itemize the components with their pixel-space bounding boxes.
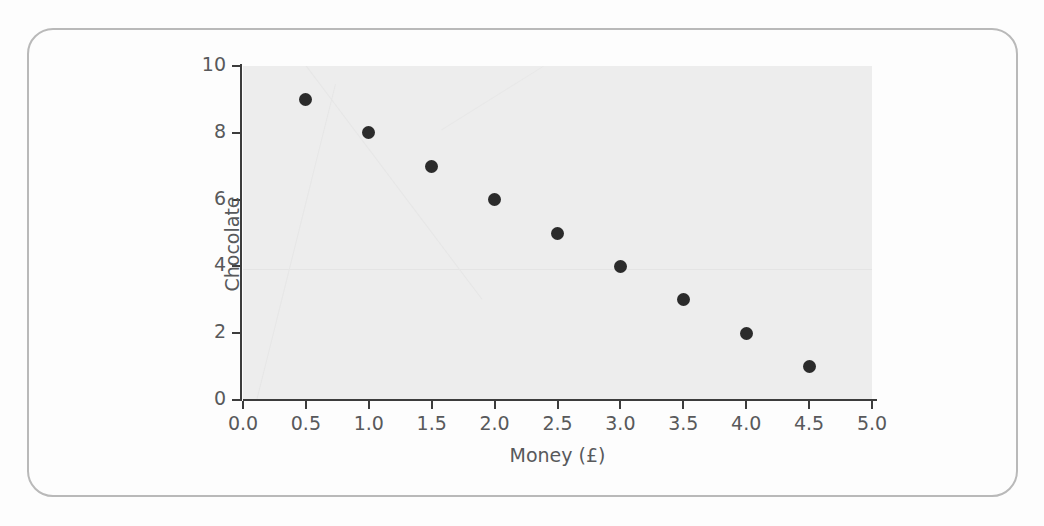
x-tick-label: 0.0 (213, 412, 273, 434)
x-tick-mark (242, 401, 244, 409)
y-tick-mark (232, 132, 240, 134)
scatter-chart-figure: 0.00.51.01.52.02.53.03.54.04.55.0 024681… (0, 0, 1044, 526)
x-tick-mark (557, 401, 559, 409)
x-tick-mark (619, 401, 621, 409)
x-tick-mark (808, 401, 810, 409)
x-tick-mark (871, 401, 873, 409)
data-point-marker (614, 260, 627, 273)
x-tick-label: 5.0 (842, 412, 902, 434)
x-tick-label: 4.0 (716, 412, 776, 434)
x-tick-label: 2.0 (465, 412, 525, 434)
x-tick-label: 1.5 (402, 412, 462, 434)
x-axis-label: Money (£) (243, 444, 872, 466)
scan-artifact-horizontal-line (243, 269, 872, 270)
y-tick-label: 2 (178, 320, 226, 342)
x-tick-mark (494, 401, 496, 409)
data-point-marker (425, 160, 438, 173)
y-tick-mark (232, 65, 240, 67)
x-tick-mark (745, 401, 747, 409)
x-tick-label: 3.0 (590, 412, 650, 434)
y-axis-label: Chocolate (221, 144, 243, 344)
scan-artifact-crease-1 (283, 66, 482, 300)
data-point-marker (551, 227, 564, 240)
y-tick-label: 8 (178, 120, 226, 142)
x-tick-mark (431, 401, 433, 409)
data-point-marker (803, 360, 816, 373)
y-tick-label: 10 (178, 53, 226, 75)
scanned-page: 0.00.51.01.52.02.53.03.54.04.55.0 024681… (0, 0, 1044, 526)
x-tick-mark (368, 401, 370, 409)
y-tick-label: 0 (178, 387, 226, 409)
x-axis-spine (243, 399, 877, 401)
y-tick-label: 6 (178, 187, 226, 209)
x-tick-label: 3.5 (653, 412, 713, 434)
y-tick-label: 4 (178, 253, 226, 275)
x-tick-mark (682, 401, 684, 409)
y-tick-mark (232, 399, 240, 401)
scan-artifact-crease-3 (441, 66, 543, 130)
x-tick-label: 0.5 (276, 412, 336, 434)
x-tick-label: 2.5 (528, 412, 588, 434)
x-tick-label: 1.0 (339, 412, 399, 434)
data-point-marker (740, 327, 753, 340)
x-tick-label: 4.5 (779, 412, 839, 434)
x-tick-mark (305, 401, 307, 409)
scan-artifact-crease-2 (255, 84, 336, 400)
